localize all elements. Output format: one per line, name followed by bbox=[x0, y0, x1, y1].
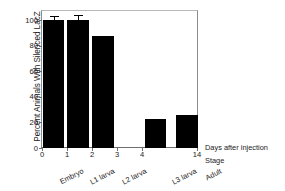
y-tick-mark-20 bbox=[39, 122, 42, 123]
bar-l3-larva bbox=[145, 119, 166, 148]
y-tick-mark-80 bbox=[39, 46, 42, 47]
error-bar-cap-2 bbox=[74, 15, 83, 16]
bar-adult bbox=[176, 115, 198, 148]
error-bar-cap-1 bbox=[50, 16, 59, 17]
bar-embryo bbox=[43, 20, 64, 148]
x-tick-label-3: 3 bbox=[115, 150, 119, 159]
plot-area bbox=[42, 10, 198, 148]
y-tick-label-80: 80 bbox=[30, 41, 38, 50]
y-tick-mark-60 bbox=[39, 71, 42, 72]
y-tick-label-0: 0 bbox=[34, 144, 38, 153]
x-axis-title-days: Days after injection bbox=[205, 143, 268, 152]
bar-chart-figure: Percent Animals With Silenced LacZ 10080… bbox=[0, 0, 285, 191]
bar-l1-larva bbox=[67, 20, 89, 148]
x-tick-label-4: 4 bbox=[140, 150, 144, 159]
y-tick-mark-40 bbox=[39, 97, 42, 98]
y-tick-label-40: 40 bbox=[30, 92, 38, 101]
y-tick-mark-100 bbox=[39, 20, 42, 21]
x-tick-label-0: 0 bbox=[40, 150, 44, 159]
x-tick-label-14: 14 bbox=[193, 150, 201, 159]
y-tick-label-100: 100 bbox=[25, 16, 38, 25]
x-tick-label-1: 1 bbox=[65, 150, 69, 159]
y-tick-label-60: 60 bbox=[30, 67, 38, 76]
bar-l2-larva bbox=[92, 36, 114, 148]
x-axis-title-stage: Stage bbox=[205, 156, 224, 165]
x-tick-label-2: 2 bbox=[90, 150, 94, 159]
y-tick-label-20: 20 bbox=[30, 118, 38, 127]
